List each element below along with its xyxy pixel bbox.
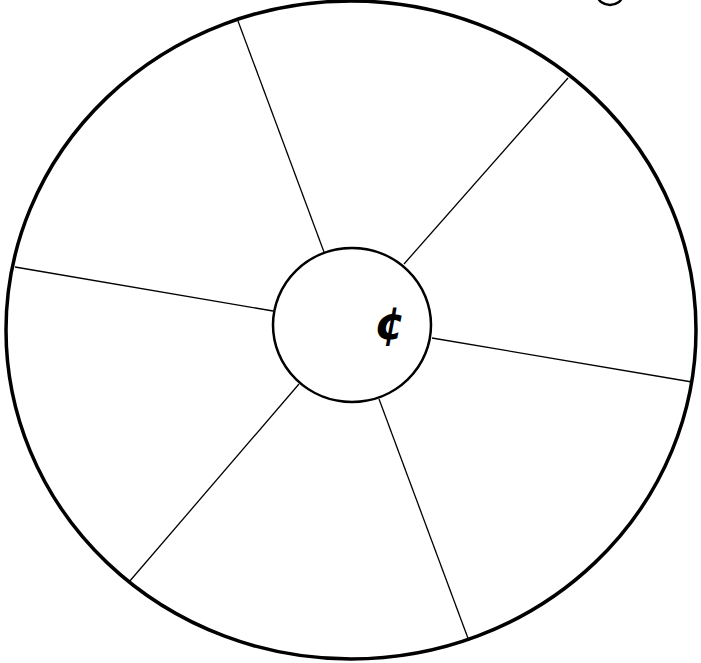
- spoke-bottom-left: [129, 384, 299, 582]
- spoke-bottom-right: [379, 399, 469, 641]
- spoke-top-right: [404, 78, 568, 264]
- clipped-mark-fragment: [598, 0, 622, 5]
- spoke-left: [15, 267, 273, 311]
- spoke-wheel-diagram: [0, 0, 701, 663]
- cent-symbol: ¢: [372, 296, 408, 352]
- spoke-right: [432, 338, 692, 382]
- spoke-top-left: [238, 21, 324, 252]
